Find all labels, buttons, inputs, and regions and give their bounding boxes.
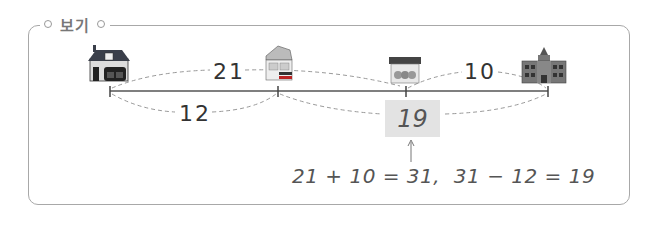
school-icon bbox=[522, 47, 566, 83]
answer-box: 19 bbox=[385, 100, 440, 137]
distance-house-shop-lower: 12 bbox=[179, 101, 211, 126]
answer-value: 19 bbox=[397, 105, 428, 133]
arc-12-right bbox=[212, 94, 276, 112]
shop-icon bbox=[266, 46, 292, 80]
solution-equation: 21 + 10 = 31, 31 − 12 = 19 bbox=[292, 164, 595, 188]
distance-store-school: 10 bbox=[464, 59, 496, 84]
arc-19-right bbox=[445, 94, 546, 114]
arc-19-left bbox=[280, 94, 382, 114]
distance-house-shop-upper: 21 bbox=[213, 59, 245, 84]
arc-12-left bbox=[112, 94, 175, 112]
house-icon bbox=[88, 45, 130, 81]
store-icon bbox=[389, 57, 421, 83]
